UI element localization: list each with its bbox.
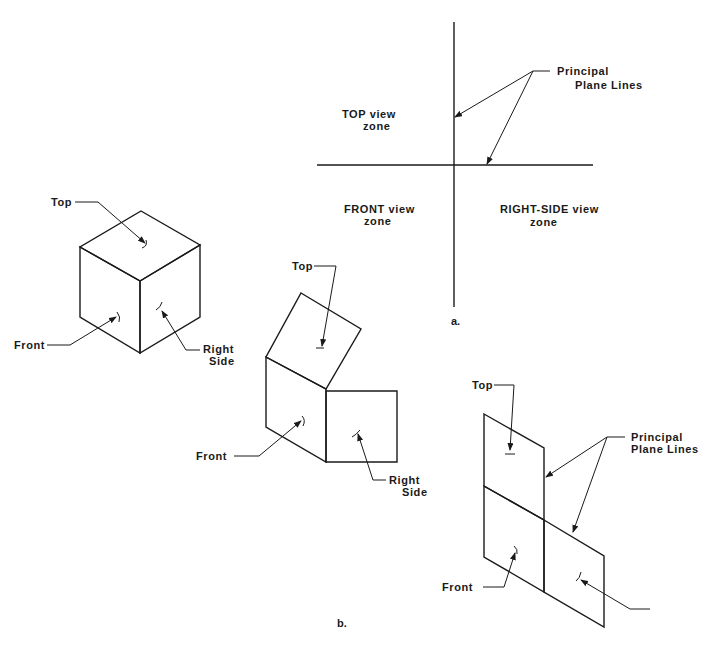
unfolding-top-label: Top (292, 260, 313, 272)
flattened-front-label: Front (442, 581, 473, 593)
flattened-right-view (544, 520, 604, 627)
cube-front-tick (117, 312, 120, 322)
flattened-callout-arrow-horizontal (573, 437, 607, 532)
figure-a-caption: a. (451, 315, 460, 327)
cube-right-label-line1: Right (203, 343, 234, 355)
callout-label-a-line1: Principal (557, 65, 609, 77)
unfolding-front-tick (302, 416, 304, 426)
flattened-front-tick (514, 546, 517, 554)
flattened-front-view (484, 486, 544, 592)
unfolding-front-face (266, 357, 326, 462)
unfolding-right-face (326, 391, 397, 462)
top-zone-label-line2: zone (363, 120, 390, 132)
unfolding-cube: Top Front Right Side (196, 260, 428, 498)
cube-right-label-line2: Side (209, 355, 235, 367)
cube-front-face (80, 247, 140, 353)
flattened-top-view (484, 414, 544, 520)
unfolding-front-leader (234, 421, 301, 456)
orthographic-projection-diagram: Principal Plane Lines TOP view zone FRON… (0, 0, 718, 649)
unfolding-right-label-line2: Side (402, 486, 428, 498)
front-zone-label-line2: zone (364, 215, 391, 227)
unfolding-top-leader (314, 266, 336, 346)
cube-right-leader (162, 311, 200, 350)
right-side-zone-label-line1: RIGHT-SIDE view (500, 203, 599, 215)
unfolding-right-leader (358, 434, 386, 480)
flattened-views: Top Front Principal Plane Lines b. (337, 379, 699, 629)
figure-a: Principal Plane Lines TOP view zone FRON… (317, 22, 643, 327)
flattened-right-leader (581, 580, 650, 609)
figure-b-caption: b. (337, 617, 347, 629)
cube-right-tick (156, 302, 162, 310)
cube-front-leader (47, 317, 116, 345)
unfolding-right-label-line1: Right (389, 474, 420, 486)
cube-top-label: Top (51, 196, 72, 208)
unfolding-front-label: Front (196, 450, 227, 462)
cube-right-face (140, 245, 200, 353)
right-side-zone-label-line2: zone (530, 216, 557, 228)
flattened-right-tick (576, 572, 581, 581)
flattened-callout-label-line2: Plane Lines (631, 443, 699, 455)
flattened-top-label: Top (472, 379, 493, 391)
flattened-front-leader (483, 553, 515, 587)
cube-top-face (80, 211, 200, 281)
flattened-top-leader (494, 385, 514, 450)
callout-label-a-line2: Plane Lines (575, 79, 643, 91)
top-zone-label-line1: TOP view (342, 108, 396, 120)
cube-top-leader (75, 202, 145, 243)
flattened-callout-arrow-vertical (546, 437, 607, 477)
cube-front-label: Front (14, 339, 45, 351)
flattened-callout-label-line1: Principal (631, 431, 683, 443)
unfolding-top-face (266, 293, 361, 389)
isometric-cube: Top Front Right Side (14, 196, 235, 367)
front-zone-label-line1: FRONT view (344, 203, 415, 215)
